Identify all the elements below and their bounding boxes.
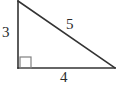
side-label-hypotenuse: 5 <box>66 17 74 32</box>
right-triangle-figure: 3 4 5 <box>0 0 122 88</box>
side-label-horizontal-leg: 4 <box>60 70 68 85</box>
right-angle-marker-icon <box>20 57 31 68</box>
triangle-side-hypotenuse <box>18 1 115 68</box>
side-label-vertical-leg: 3 <box>2 25 10 40</box>
